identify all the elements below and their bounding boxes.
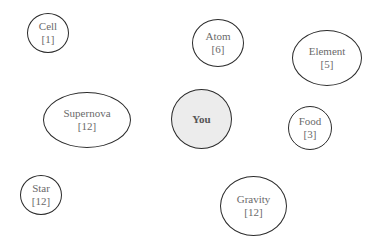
node-label: Cell <box>39 20 57 33</box>
node-label: Star <box>32 182 50 195</box>
node-gravity: Gravity [12] <box>220 176 287 236</box>
node-count: [5] <box>321 58 334 71</box>
node-count: [6] <box>212 43 225 56</box>
node-cell: Cell [1] <box>27 13 69 53</box>
node-label: Element <box>309 45 346 58</box>
node-atom: Atom [6] <box>192 19 244 67</box>
node-count: [12] <box>32 195 50 208</box>
node-label: Supernova <box>63 107 110 120</box>
node-count: [1] <box>42 33 55 46</box>
node-you: You <box>171 89 232 149</box>
node-count: [12] <box>244 206 262 219</box>
node-label: Gravity <box>237 193 271 206</box>
node-food: Food [3] <box>288 106 332 150</box>
bubble-diagram: Cell [1] Atom [6] Element [5] Supernova … <box>0 0 375 248</box>
node-star: Star [12] <box>20 175 62 215</box>
center-node-label: You <box>192 113 210 126</box>
node-label: Food <box>299 115 322 128</box>
node-count: [3] <box>304 128 317 141</box>
node-supernova: Supernova [12] <box>43 92 131 148</box>
node-element: Element [5] <box>292 30 362 86</box>
node-label: Atom <box>205 30 230 43</box>
node-count: [12] <box>78 120 96 133</box>
